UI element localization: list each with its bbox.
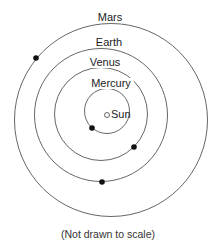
venus-label: Venus: [90, 56, 121, 68]
venus-planet-icon: [131, 144, 137, 150]
mars-label: Mars: [98, 11, 123, 23]
caption: (Not drawn to scale): [61, 228, 155, 240]
mars-orbit: [15, 24, 208, 217]
sun-label: Sun: [111, 108, 131, 120]
sun-icon: [105, 113, 110, 118]
earth-planet-icon: [99, 179, 105, 185]
mars-planet-icon: [33, 55, 39, 61]
mercury-label: Mercury: [91, 77, 131, 89]
solar-system-diagram: Mars Earth Venus Mercury Sun (Not drawn …: [0, 0, 223, 244]
earth-label: Earth: [96, 36, 122, 48]
mercury-planet-icon: [89, 125, 95, 131]
